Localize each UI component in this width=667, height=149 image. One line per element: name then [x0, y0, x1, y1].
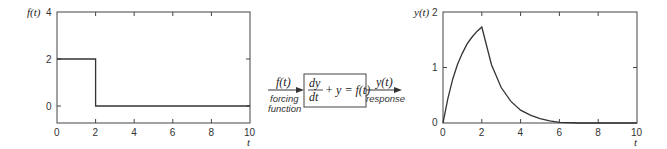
equation-denominator: dt — [309, 90, 319, 104]
left-y-axis-name: f(t) — [27, 6, 41, 19]
right-xtick-2: 2 — [479, 127, 485, 138]
forcing-function-plot: f(t) 4 2 0 0 2 4 6 8 10 t — [27, 6, 256, 148]
left-ytick-2: 2 — [46, 54, 52, 65]
left-ytick-4: 4 — [46, 7, 52, 18]
right-xtick-4: 4 — [518, 127, 524, 138]
left-xtick-0: 0 — [54, 127, 60, 138]
right-xtick-0: 0 — [440, 127, 446, 138]
response-plot: y(t) 2 1 0 0 2 4 6 8 10 t — [413, 6, 643, 148]
left-xtick-2: 2 — [93, 127, 99, 138]
equation-numerator: dy — [309, 76, 321, 90]
left-xtick-6: 6 — [170, 127, 176, 138]
right-ytick-1: 1 — [432, 62, 438, 73]
input-signal-label: f(t) — [276, 75, 291, 89]
right-y-axis-name: y(t) — [413, 6, 430, 19]
output-caption-response: response — [366, 93, 405, 104]
block-diagram: f(t) forcing function dy dt + y = f(t) y… — [268, 74, 405, 114]
figure-canvas: f(t) 4 2 0 0 2 4 6 8 10 t f(t) forcing f… — [0, 0, 667, 149]
forcing-function-curve — [57, 59, 250, 106]
left-xtick-8: 8 — [208, 127, 214, 138]
equation-rest: + y = f(t) — [325, 83, 370, 97]
right-xtick-6: 6 — [556, 127, 562, 138]
output-signal-label: y(t) — [375, 75, 393, 89]
left-ytick-0: 0 — [46, 101, 52, 112]
right-plot-frame — [443, 12, 637, 123]
right-xtick-8: 8 — [595, 127, 601, 138]
right-ytick-0: 0 — [432, 117, 438, 128]
left-xtick-4: 4 — [131, 127, 137, 138]
right-ytick-2: 2 — [432, 7, 438, 18]
input-caption-function: function — [268, 103, 301, 114]
response-curve — [443, 27, 637, 123]
right-plot-ticks — [443, 12, 637, 123]
